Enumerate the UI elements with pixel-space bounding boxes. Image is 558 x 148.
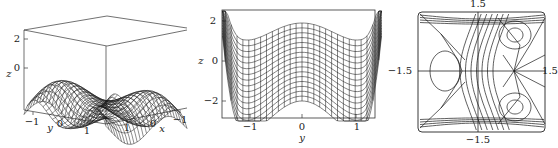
contour-lines <box>420 14 545 130</box>
plot3-bottom-label: −1.5 <box>466 135 490 145</box>
plot3-left-label: −1.5 <box>388 66 412 76</box>
plot3-right-label: 1.5 <box>542 66 558 76</box>
plot3-top-label: 1.5 <box>470 0 486 9</box>
